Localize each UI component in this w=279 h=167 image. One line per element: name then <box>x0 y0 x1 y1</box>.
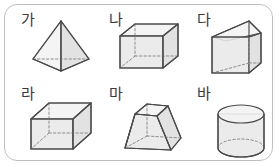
item-label-ma: 마 <box>109 87 123 102</box>
item-cell-ra: 라 <box>5 83 95 162</box>
triprism-face-right <box>249 33 261 73</box>
shape-cylinder <box>214 103 268 159</box>
item-label-ra: 라 <box>21 87 35 102</box>
cylinder-top-ellipse <box>218 105 264 123</box>
solids-figure-page: 가 나 <box>0 0 279 167</box>
pyramid-face-right <box>61 21 89 71</box>
item-cell-na: 나 <box>95 5 185 83</box>
pyramid-face-left <box>33 21 61 71</box>
item-label-ba: 바 <box>197 87 211 102</box>
item-cell-ma: 마 <box>95 83 185 162</box>
cube-face-front <box>31 119 73 149</box>
shape-truncated-pyramid <box>121 102 183 158</box>
shape-triangular-prism <box>209 19 267 79</box>
shape-rectangular-prism <box>118 22 180 76</box>
item-cell-ba: 바 <box>185 83 274 162</box>
shape-square-pyramid <box>29 19 93 81</box>
shape-cube <box>29 101 93 157</box>
item-cell-da: 다 <box>185 5 274 83</box>
figure-frame: 가 나 <box>4 4 273 161</box>
item-cell-ga: 가 <box>5 5 95 83</box>
